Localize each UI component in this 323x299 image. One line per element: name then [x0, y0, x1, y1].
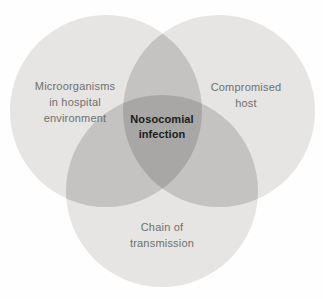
venn-diagram: Microorganisms in hospital environment C… [0, 0, 323, 299]
label-line: Microorganisms [5, 78, 145, 94]
label-chain-of-transmission: Chain of transmission [92, 219, 232, 251]
label-compromised-host: Compromised host [186, 79, 306, 111]
label-line: in hospital [5, 94, 145, 110]
venn-circles-canvas [0, 0, 323, 299]
label-line: transmission [92, 235, 232, 251]
label-line: Compromised [186, 79, 306, 95]
label-line: host [186, 95, 306, 111]
label-line: Chain of [92, 219, 232, 235]
label-line: infection [102, 127, 222, 142]
label-nosocomial-infection: Nosocomial infection [102, 112, 222, 142]
label-line: Nosocomial [102, 112, 222, 127]
